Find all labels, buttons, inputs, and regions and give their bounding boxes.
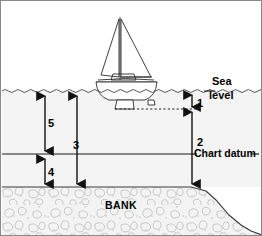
keel xyxy=(115,100,134,109)
rudder xyxy=(148,100,155,105)
measurement-label-3: 3 xyxy=(73,140,79,152)
measurement-label-1: 1 xyxy=(197,98,203,110)
sea-label: Sea xyxy=(212,76,232,88)
measurement-label-2: 2 xyxy=(197,137,203,149)
measurement-label-5: 5 xyxy=(48,118,54,130)
bank-label: BANK xyxy=(105,200,137,211)
chart-datum-label: Chart datum xyxy=(194,148,256,159)
sea-level-label: level xyxy=(209,90,233,102)
hull xyxy=(96,82,157,100)
measurement-label-4: 4 xyxy=(48,167,54,179)
diagram-frame: Sea level Chart datum BANK 1 2 3 4 5 xyxy=(0,0,262,236)
bank-region xyxy=(2,187,262,236)
